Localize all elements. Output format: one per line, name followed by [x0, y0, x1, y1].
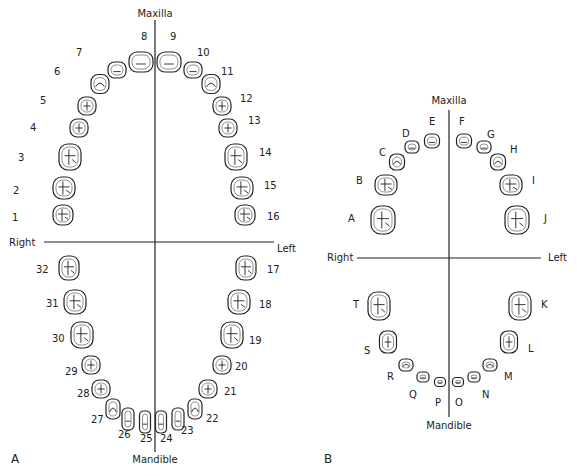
tooth-P — [435, 378, 446, 387]
tooth-label-D: D — [402, 129, 410, 139]
tooth-label-K: K — [541, 300, 548, 310]
tooth-label-17: 17 — [267, 265, 280, 275]
tooth-label-A: A — [348, 214, 355, 224]
tooth-24 — [156, 411, 167, 433]
tooth-label-25: 25 — [140, 434, 153, 444]
tooth-label-30: 30 — [52, 334, 65, 344]
tooth-label-22: 22 — [206, 414, 219, 424]
tooth-label-R: R — [387, 372, 394, 382]
tooth-label-1: 1 — [12, 213, 18, 223]
panel-b-right-label: Right — [327, 253, 353, 263]
tooth-26 — [122, 408, 134, 430]
tooth-label-31: 31 — [46, 299, 59, 309]
tooth-16 — [235, 205, 255, 225]
tooth-O — [453, 378, 464, 387]
tooth-label-15: 15 — [264, 181, 277, 191]
tooth-13 — [219, 119, 237, 137]
tooth-H — [491, 154, 506, 170]
tooth-label-H: H — [510, 145, 518, 155]
tooth-27 — [106, 399, 120, 419]
tooth-T — [368, 292, 390, 320]
tooth-label-2: 2 — [13, 186, 19, 196]
tooth-28 — [92, 380, 110, 398]
tooth-31 — [64, 290, 86, 314]
tooth-label-G: G — [487, 130, 495, 140]
tooth-label-N: N — [482, 390, 489, 400]
panel-a-mandible-label: Mandible — [132, 454, 178, 465]
tooth-A — [371, 206, 395, 234]
tooth-8 — [129, 52, 153, 72]
tooth-label-28: 28 — [77, 389, 90, 399]
tooth-label-29: 29 — [65, 367, 78, 377]
panel-a-letter: A — [11, 452, 19, 466]
tooth-30 — [71, 322, 93, 348]
tooth-2 — [53, 177, 75, 199]
tooth-32 — [59, 256, 79, 280]
tooth-label-23: 23 — [181, 426, 194, 436]
tooth-label-8: 8 — [141, 32, 147, 42]
tooth-label-18: 18 — [259, 300, 272, 310]
tooth-E — [425, 134, 440, 148]
tooth-label-14: 14 — [259, 148, 272, 158]
tooth-11 — [202, 75, 220, 94]
panel-b-maxilla-label: Maxilla — [431, 95, 466, 106]
tooth-label-J: J — [544, 214, 547, 224]
panel-b-letter: B — [324, 452, 332, 466]
panel-b-left-label: Left — [548, 253, 567, 263]
tooth-21 — [199, 380, 217, 398]
tooth-label-I: I — [532, 176, 535, 186]
tooth-label-27: 27 — [91, 415, 104, 425]
tooth-label-S: S — [364, 346, 370, 356]
tooth-20 — [213, 356, 231, 374]
tooth-label-11: 11 — [221, 67, 234, 77]
tooth-M — [483, 359, 497, 371]
tooth-label-20: 20 — [235, 362, 248, 372]
panel-a-left-label: Left — [277, 244, 296, 254]
tooth-1 — [53, 205, 73, 225]
tooth-R — [399, 359, 413, 371]
tooth-label-4: 4 — [30, 123, 36, 133]
tooth-label-21: 21 — [224, 387, 237, 397]
tooth-label-F: F — [459, 117, 465, 127]
tooth-I — [500, 175, 522, 195]
tooth-10 — [184, 62, 202, 78]
tooth-B — [375, 175, 397, 195]
tooth-D — [405, 141, 419, 153]
tooth-4 — [70, 119, 88, 137]
tooth-label-E: E — [429, 117, 435, 127]
tooth-label-26: 26 — [118, 430, 131, 440]
tooth-label-T: T — [353, 300, 359, 310]
tooth-label-M: M — [504, 372, 513, 382]
tooth-29 — [82, 356, 100, 374]
tooth-6 — [91, 75, 109, 94]
tooth-label-10: 10 — [197, 48, 210, 58]
panel-b-mandible-label: Mandible — [426, 420, 472, 431]
tooth-12 — [213, 97, 231, 115]
tooth-J — [505, 206, 529, 234]
tooth-label-3: 3 — [18, 153, 24, 163]
tooth-Q — [417, 372, 429, 382]
tooth-18 — [228, 290, 250, 314]
tooth-label-6: 6 — [54, 67, 60, 77]
tooth-25 — [140, 411, 151, 433]
tooth-label-13: 13 — [248, 116, 261, 126]
tooth-5 — [78, 97, 96, 115]
tooth-label-12: 12 — [240, 94, 253, 104]
tooth-label-Q: Q — [409, 390, 417, 400]
tooth-label-C: C — [379, 148, 386, 158]
tooth-N — [468, 372, 480, 382]
tooth-14 — [225, 144, 247, 170]
tooth-3 — [59, 144, 81, 170]
dental-chart-drawing — [0, 0, 577, 476]
tooth-19 — [221, 322, 243, 348]
tooth-22 — [188, 399, 202, 419]
tooth-label-24: 24 — [160, 434, 173, 444]
panel-a-right-label: Right — [9, 238, 35, 248]
tooth-label-16: 16 — [267, 212, 280, 222]
tooth-label-19: 19 — [249, 336, 262, 346]
tooth-label-9: 9 — [170, 32, 176, 42]
tooth-7 — [108, 62, 126, 78]
tooth-F — [457, 134, 472, 148]
tooth-K — [509, 292, 531, 320]
tooth-label-O: O — [455, 398, 463, 408]
